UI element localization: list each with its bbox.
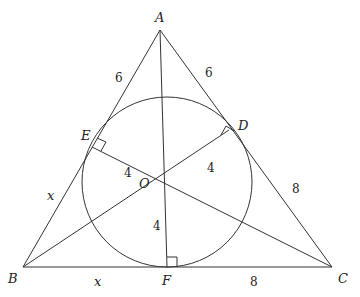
- label-b: B: [7, 271, 18, 286]
- label-o: O: [139, 176, 150, 191]
- right-angle-e: [97, 138, 106, 151]
- label-oe: 4: [124, 166, 132, 180]
- label-e: E: [80, 128, 91, 143]
- label-cf: 8: [250, 275, 258, 289]
- label-od: 4: [207, 161, 215, 175]
- label-of: 4: [153, 219, 161, 233]
- right-angle-f: [167, 257, 177, 267]
- label-cd: 8: [292, 182, 300, 196]
- label-d: D: [237, 118, 249, 133]
- segment-af: [160, 30, 167, 267]
- label-f: F: [161, 273, 172, 288]
- label-be: x: [47, 188, 55, 203]
- label-bf: x: [94, 274, 102, 289]
- label-a: A: [154, 10, 164, 25]
- triangle-abc: [23, 30, 332, 267]
- incircle: [82, 97, 252, 267]
- label-ae: 6: [115, 71, 123, 85]
- label-ad: 6: [205, 66, 213, 80]
- label-c: C: [338, 271, 348, 286]
- geometry-diagram: A B C D E F O 6 6 x x 8 8 4 4 4: [0, 0, 360, 297]
